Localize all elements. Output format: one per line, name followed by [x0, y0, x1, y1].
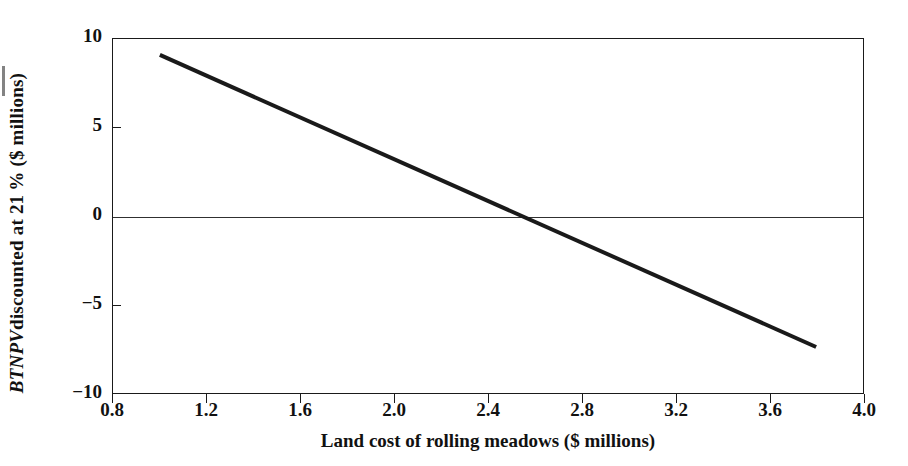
x-tick-label: 3.6 [735, 399, 805, 421]
x-tick-label: 1.6 [265, 399, 335, 421]
y-tick-label: 5 [50, 114, 102, 136]
data-series-line [113, 39, 863, 393]
plot-area [112, 38, 864, 394]
x-tick-label: 1.2 [171, 399, 241, 421]
y-tick [112, 305, 121, 306]
y-tick-label: −10 [50, 381, 102, 403]
chart-figure: BTNPV discounted at 21 % ($ millions) 0.… [0, 0, 908, 466]
y-axis-title-rest: discounted at 21 % ($ millions) [6, 73, 28, 330]
x-tick-label: 2.0 [359, 399, 429, 421]
y-tick-label: 0 [50, 203, 102, 225]
x-tick-label: 2.8 [547, 399, 617, 421]
y-tick-label: −5 [50, 292, 102, 314]
series-polyline [160, 55, 816, 347]
x-axis-title: Land cost of rolling meadows ($ millions… [112, 430, 864, 452]
y-axis-title: BTNPV discounted at 21 % ($ millions) [0, 0, 34, 466]
x-tick-label: 3.2 [641, 399, 711, 421]
y-tick-label: 10 [50, 25, 102, 47]
x-tick-label: 2.4 [453, 399, 523, 421]
y-axis-title-italic-part: BTNPV [6, 330, 28, 393]
y-tick [112, 127, 121, 128]
x-tick-label: 4.0 [829, 399, 899, 421]
